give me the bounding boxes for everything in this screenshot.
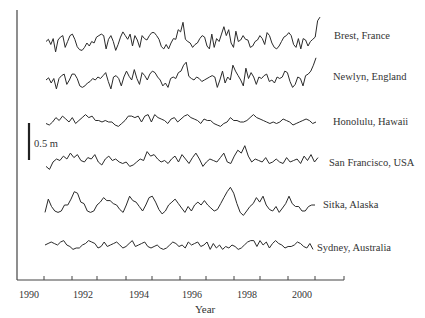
x-tick-label-1994: 1994	[129, 289, 149, 300]
x-tick-label-1990: 1990	[19, 289, 39, 300]
series-line-sitka	[45, 187, 315, 215]
series-label-sydney: Sydney, Australia	[317, 242, 391, 253]
sea-level-chart: 1990 1992 1994 1996 1998 2000 Year 0.5 m…	[0, 0, 425, 318]
x-axis-title: Year	[195, 303, 216, 315]
series-label-sitka: Sitka, Alaska	[323, 199, 379, 210]
series-line-honolulu	[46, 115, 316, 127]
x-tick-label-1998: 1998	[237, 289, 257, 300]
series-label-newlyn: Newlyn, England	[333, 71, 407, 82]
series-line-sydney	[45, 241, 313, 250]
series-line-newlyn	[46, 58, 316, 89]
x-tick-label-2000: 2000	[292, 289, 312, 300]
series-line-san-francisco	[46, 146, 318, 170]
x-tick-label-1996: 1996	[182, 289, 202, 300]
scale-bar-label: 0.5 m	[34, 138, 58, 149]
series-line-brest	[46, 17, 320, 52]
series-label-brest: Brest, France	[334, 30, 390, 41]
series-label-san-francisco: San Francisco, USA	[329, 157, 415, 168]
series-label-honolulu: Honolulu, Hawaii	[333, 116, 408, 127]
series-group	[45, 17, 320, 249]
x-tick-label-1992: 1992	[73, 289, 93, 300]
